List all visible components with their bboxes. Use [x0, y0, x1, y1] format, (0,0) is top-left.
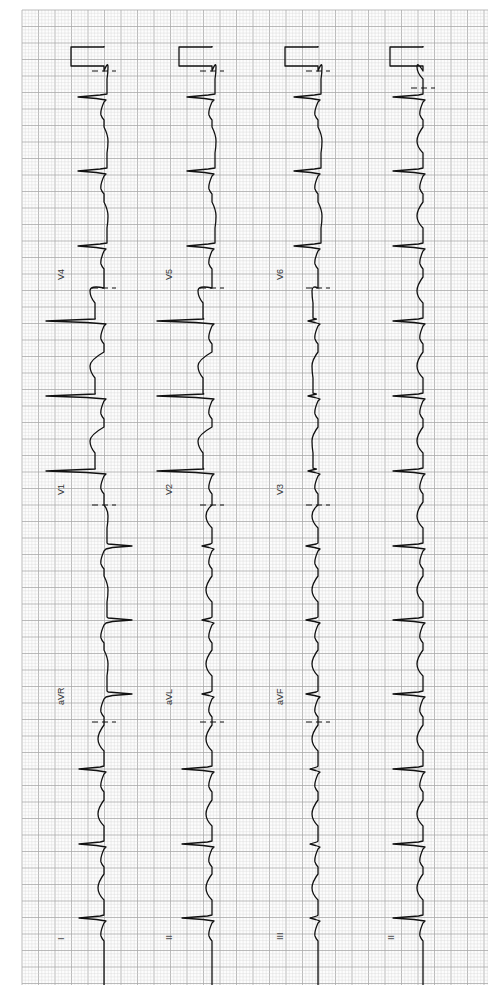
lead-label-avl: aVL	[164, 689, 174, 705]
lead-label-v3: V3	[275, 484, 285, 495]
lead-label-ii: II	[164, 935, 174, 940]
lead-label-iii: III	[275, 932, 285, 940]
lead-label-i: I	[56, 937, 66, 940]
lead-label-v2: V2	[164, 484, 174, 495]
lead-label-v4: V4	[56, 269, 66, 280]
ecg-grid	[22, 10, 488, 985]
lead-label-ii: II	[386, 935, 396, 940]
lead-label-v5: V5	[164, 269, 174, 280]
lead-label-v6: V6	[275, 269, 285, 280]
lead-label-avf: aVF	[275, 688, 285, 705]
lead-label-avr: aVR	[56, 687, 66, 705]
lead-label-v1: V1	[56, 484, 66, 495]
ecg-chart: IaVRV1V4IIaVLV2V5IIIaVFV3V6II	[0, 0, 503, 987]
